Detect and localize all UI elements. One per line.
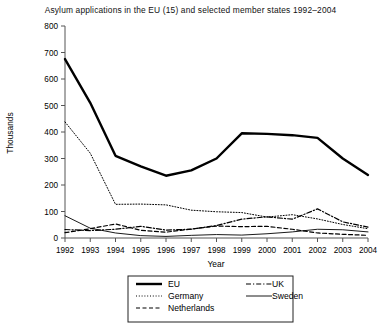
- x-tick-label: 1995: [132, 246, 151, 255]
- x-tick-label: 2004: [359, 246, 378, 255]
- y-axis-ticks: [61, 26, 65, 238]
- x-tick-label: 1997: [182, 246, 201, 255]
- chart-container: Asylum applications in the EU (15) and s…: [0, 0, 381, 328]
- line-chart: 0100200300400500600700800 19921993199419…: [0, 0, 381, 328]
- series-line-eu: [65, 59, 368, 176]
- y-tick-label: 500: [44, 102, 58, 111]
- y-axis-tick-labels: 0100200300400500600700800: [44, 22, 58, 243]
- x-tick-label: 1998: [207, 246, 226, 255]
- x-tick-label: 1993: [81, 246, 100, 255]
- x-tick-label: 2003: [334, 246, 353, 255]
- series-line-germany: [65, 122, 368, 229]
- x-tick-label: 2002: [308, 246, 327, 255]
- x-tick-label: 1996: [157, 246, 176, 255]
- legend-label-uk: UK: [272, 279, 284, 289]
- y-tick-label: 400: [44, 128, 58, 137]
- x-tick-label: 1999: [233, 246, 252, 255]
- y-tick-label: 200: [44, 181, 58, 190]
- x-axis-tick-labels: 1992199319941995199619971998199920002001…: [56, 246, 378, 255]
- chart-legend: EUGermanyNetherlandsUKSweden: [128, 276, 303, 322]
- legend-label-netherlands: Netherlands: [168, 303, 214, 313]
- y-tick-label: 600: [44, 75, 58, 84]
- x-axis-ticks: [65, 238, 368, 242]
- y-axis-title: Thousands: [5, 112, 15, 153]
- y-tick-label: 800: [44, 22, 58, 31]
- y-tick-label: 700: [44, 49, 58, 58]
- series-lines: [65, 59, 368, 236]
- y-tick-label: 300: [44, 155, 58, 164]
- x-axis-title: Year: [208, 259, 225, 269]
- x-tick-label: 2000: [258, 246, 277, 255]
- legend-label-sweden: Sweden: [272, 291, 303, 301]
- x-tick-label: 2001: [283, 246, 302, 255]
- chart-title: Asylum applications in the EU (15) and s…: [0, 5, 381, 15]
- legend-label-germany: Germany: [168, 291, 204, 301]
- x-tick-label: 1992: [56, 246, 75, 255]
- y-tick-label: 0: [53, 234, 58, 243]
- legend-label-eu: EU: [168, 279, 180, 289]
- x-tick-label: 1994: [106, 246, 125, 255]
- y-tick-label: 100: [44, 208, 58, 217]
